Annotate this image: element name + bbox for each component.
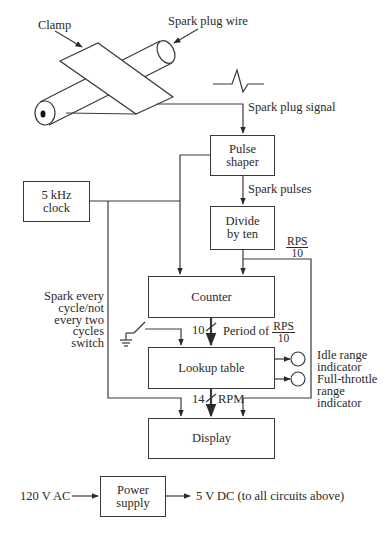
pulse-shaper-line1: Pulse — [229, 142, 256, 156]
clock-line2: clock — [43, 201, 70, 215]
clamp-label: Clamp — [38, 19, 71, 32]
counter-label: Counter — [191, 291, 231, 304]
dc-output-label: 5 V DC (to all circuits above) — [196, 490, 344, 503]
display-block: Display — [148, 418, 275, 459]
lookup-table-label: Lookup table — [178, 362, 244, 375]
ac-input-label: 120 V AC — [20, 490, 70, 503]
rps-over-10-label: RPS10 — [286, 236, 308, 259]
power-line1: Power — [117, 483, 149, 497]
pulse-shaper-line2: shaper — [226, 155, 259, 169]
pulse-shaper-block: Pulseshaper — [210, 135, 275, 176]
switch-label: Spark every cycle/not every two cycles s… — [44, 291, 104, 350]
counter-block: Counter — [148, 276, 275, 318]
clock-block: 5 kHzclock — [23, 181, 90, 222]
full-throttle-indicator-label: Full-throttle range indicator — [317, 373, 377, 409]
clamp-icon — [60, 43, 173, 114]
power-supply-block: Powersupply — [100, 476, 166, 517]
idle-indicator-lamp-icon — [291, 352, 305, 366]
full-line: indicator — [317, 396, 361, 410]
power-line2: supply — [116, 496, 149, 510]
divide-line2: by ten — [227, 227, 258, 241]
divide-by-ten-block: Divideby ten — [210, 206, 275, 250]
full-throttle-indicator-lamp-icon — [291, 372, 305, 386]
period-label: Period of RPS10 — [223, 321, 295, 344]
display-label: Display — [192, 432, 231, 445]
period-denominator: 10 — [272, 333, 294, 344]
divide-line1: Divide — [225, 214, 259, 228]
spark-plug-signal-label: Spark plug signal — [248, 101, 336, 114]
period-of-text: Period of — [223, 324, 269, 338]
rpm-label: RPM — [218, 393, 244, 406]
spark-pulses-label: Spark pulses — [248, 183, 312, 196]
display-bus-width: 14 — [192, 393, 205, 406]
rps-denominator: 10 — [286, 248, 308, 259]
spike-waveform-icon — [213, 70, 264, 92]
clock-line1: 5 kHz — [41, 188, 71, 202]
lookup-table-block: Lookup table — [148, 347, 275, 389]
idle-indicator-label: Idle range indicator — [317, 349, 367, 373]
spark-plug-wire-label: Spark plug wire — [168, 15, 248, 28]
counter-bus-width: 10 — [192, 324, 205, 337]
switch-label-line: switch — [71, 336, 104, 350]
